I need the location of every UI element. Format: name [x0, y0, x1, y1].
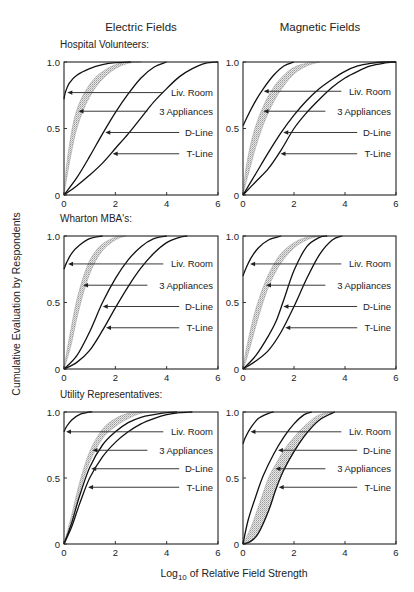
- label-text: 3 Appliances: [337, 280, 391, 291]
- label-t-line: T-Line: [279, 482, 391, 493]
- label-text: T-Line: [187, 148, 213, 159]
- y-tick-label: 0: [55, 190, 60, 201]
- label-text: Liv. Room: [349, 426, 391, 437]
- panel-electric-fields-3: Utility Representatives:024600.51.0Liv. …: [47, 389, 221, 558]
- label-liv-room: Liv. Room: [250, 258, 391, 269]
- x-tick-label: 4: [164, 372, 169, 383]
- panel-magnetic-fields-2: 024600.51.0Liv. Room3 AppliancesD-LineT-…: [226, 231, 399, 384]
- panel-magnetic-fields-1: 024600.51.0Liv. Room3 AppliancesD-LineT-…: [226, 57, 399, 210]
- label-text: Liv. Room: [349, 86, 391, 97]
- label-text: 3 Appliances: [159, 445, 213, 456]
- y-tick-label: 0: [55, 364, 60, 375]
- label-text: D-Line: [185, 127, 213, 138]
- label-text: 3 Appliances: [337, 463, 391, 474]
- band-3-appliances: [64, 236, 126, 369]
- y-tick-label: 0.5: [226, 297, 239, 308]
- x-axis-label-prefix: Log: [160, 567, 178, 579]
- x-axis-label: Log10 of Relative Field Strength: [160, 567, 307, 582]
- arrow-icon: [264, 89, 269, 93]
- x-tick-label: 2: [113, 198, 118, 209]
- label-text: D-Line: [185, 301, 213, 312]
- label-d-line: D-Line: [283, 127, 391, 138]
- arrow-icon: [66, 430, 71, 434]
- group-title: Hospital Volunteers:: [60, 39, 149, 50]
- y-tick-label: 1.0: [226, 57, 239, 68]
- arrow-icon: [113, 152, 118, 156]
- label-text: Liv. Room: [171, 87, 213, 98]
- label-text: T-Line: [187, 322, 213, 333]
- x-tick-label: 2: [113, 547, 118, 558]
- y-tick-label: 1.0: [47, 231, 60, 242]
- x-tick-label: 0: [240, 372, 245, 383]
- curve-t-line: [64, 236, 187, 369]
- arrow-icon: [88, 485, 93, 489]
- arrow-icon: [285, 326, 290, 330]
- label-text: Liv. Room: [171, 258, 213, 269]
- curve-d-line: [64, 62, 167, 195]
- label-d-line: D-Line: [103, 301, 213, 312]
- y-tick-label: 0.5: [47, 123, 60, 134]
- label-text: D-Line: [363, 301, 391, 312]
- x-tick-label: 0: [61, 372, 66, 383]
- arrow-icon: [283, 130, 288, 134]
- label-t-line: T-Line: [285, 322, 391, 333]
- x-tick-label: 4: [342, 198, 347, 209]
- label-3-appliances: 3 Appliances: [79, 106, 214, 117]
- panel-magnetic-fields-3: 024600.51.0Liv. RoomD-Line3 AppliancesT-…: [226, 407, 399, 559]
- arrow-icon: [281, 152, 286, 156]
- arrow-icon: [106, 326, 111, 330]
- curve-liv-room: [64, 412, 92, 432]
- y-tick-label: 1.0: [47, 57, 60, 68]
- label-text: Liv. Room: [349, 258, 391, 269]
- x-tick-label: 6: [393, 547, 398, 558]
- x-tick-label: 6: [215, 198, 220, 209]
- x-tick-label: 6: [393, 372, 398, 383]
- arrow-icon: [68, 262, 73, 266]
- x-tick-label: 2: [291, 198, 296, 209]
- y-tick-label: 0: [234, 190, 239, 201]
- label-text: T-Line: [365, 148, 391, 159]
- y-tick-label: 0.5: [47, 473, 60, 484]
- x-tick-label: 6: [215, 372, 220, 383]
- panels: Hospital Volunteers:024600.51.0Liv. Room…: [47, 39, 399, 558]
- label-text: T-Line: [365, 482, 391, 493]
- arrow-icon: [103, 304, 108, 308]
- label-d-line: D-Line: [283, 301, 391, 312]
- y-tick-label: 1.0: [226, 407, 239, 418]
- band-3-appliances: [64, 62, 141, 195]
- group-title: Wharton MBA's:: [60, 213, 132, 224]
- x-tick-label: 4: [164, 547, 169, 558]
- arrow-icon: [250, 430, 255, 434]
- label-text: T-Line: [187, 482, 213, 493]
- group-title: Utility Representatives:: [60, 389, 162, 400]
- x-tick-label: 0: [240, 198, 245, 209]
- label-t-line: T-Line: [281, 148, 391, 159]
- x-tick-label: 4: [342, 372, 347, 383]
- label-t-line: T-Line: [113, 148, 213, 159]
- arrow-icon: [279, 485, 284, 489]
- label-t-line: T-Line: [106, 322, 213, 333]
- x-tick-label: 0: [61, 547, 66, 558]
- x-tick-label: 6: [215, 547, 220, 558]
- label-text: T-Line: [365, 322, 391, 333]
- label-liv-room: Liv. Room: [66, 426, 213, 437]
- label-text: D-Line: [363, 127, 391, 138]
- arrow-icon: [250, 262, 255, 266]
- y-axis-label: Cumulative Evaluation by Respondents: [10, 212, 22, 395]
- label-text: D-Line: [185, 463, 213, 474]
- label-text: Liv. Room: [171, 426, 213, 437]
- curve-liv-room: [243, 412, 274, 444]
- x-tick-label: 2: [291, 547, 296, 558]
- x-tick-label: 4: [342, 547, 347, 558]
- label-d-line: D-Line: [105, 127, 213, 138]
- x-axis-label-suffix: of Relative Field Strength: [187, 567, 308, 579]
- label-t-line: T-Line: [88, 482, 213, 493]
- label-3-appliances: 3 Appliances: [266, 280, 391, 291]
- label-text: 3 Appliances: [337, 106, 391, 117]
- label-3-appliances: 3 Appliances: [83, 280, 213, 291]
- x-tick-label: 4: [164, 198, 169, 209]
- figure: Electric Fields Magnetic Fields Cumulati…: [0, 0, 414, 592]
- arrow-icon: [283, 304, 288, 308]
- x-tick-label: 2: [291, 372, 296, 383]
- arrow-icon: [67, 90, 72, 94]
